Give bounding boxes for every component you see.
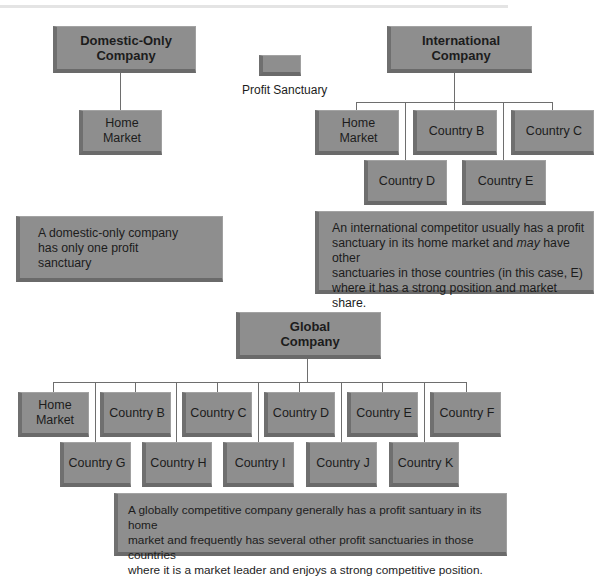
intl-drop-e: [503, 102, 504, 160]
global-country-j-box: Country J: [306, 442, 377, 487]
intl-drop-home: [356, 102, 357, 110]
global-drop-b: [135, 382, 136, 392]
global-drop-h: [176, 382, 177, 442]
global-drop-g: [95, 382, 96, 442]
top-rule: [0, 5, 508, 8]
global-trunk: [307, 359, 308, 382]
intl-home-market-box: Home Market: [315, 110, 399, 155]
intl-drop-c: [552, 102, 553, 110]
global-drop-k: [424, 382, 425, 442]
domestic-company-box: Domestic-Only Company: [53, 26, 196, 73]
international-description: An international competitor usually has …: [315, 211, 594, 294]
global-country-i-box: Country I: [223, 442, 294, 487]
intl-country-b-box: Country B: [413, 110, 497, 155]
global-country-h-box: Country H: [142, 442, 212, 487]
global-country-f-box: Country F: [430, 392, 501, 437]
global-drop-j: [341, 382, 342, 442]
global-country-k-box: Country K: [389, 442, 459, 487]
global-description: A globally competitive company generally…: [114, 493, 507, 556]
domestic-home-market-box: Home Market: [79, 110, 162, 155]
global-country-g-box: Country G: [60, 442, 131, 487]
global-drop-d: [299, 382, 300, 392]
global-country-b-box: Country B: [100, 392, 171, 437]
global-drop-home: [53, 382, 54, 392]
domestic-description: A domestic-only company has only one pro…: [16, 216, 223, 282]
global-drop-c: [217, 382, 218, 392]
global-country-d-box: Country D: [264, 392, 335, 437]
global-country-e-box: Country E: [347, 392, 418, 437]
global-drop-e: [382, 382, 383, 392]
global-company-box: Global Company: [236, 312, 381, 359]
intl-drop-d: [405, 102, 406, 160]
international-company-box: International Company: [387, 26, 532, 73]
intl-country-e-box: Country E: [462, 160, 546, 205]
legend-label: Profit Sanctuary: [242, 83, 327, 97]
global-bus: [53, 382, 467, 383]
global-country-c-box: Country C: [182, 392, 252, 437]
global-drop-f: [466, 382, 467, 392]
intl-trunk: [454, 73, 455, 103]
intl-drop-b: [454, 102, 455, 110]
intl-country-c-box: Country C: [511, 110, 594, 155]
intl-country-d-box: Country D: [364, 160, 447, 205]
intl-desc-em: may: [517, 236, 540, 250]
domestic-connector: [120, 73, 121, 110]
global-drop-i: [258, 382, 259, 442]
global-home-market-box: Home Market: [18, 392, 89, 437]
legend-swatch: [259, 55, 301, 76]
